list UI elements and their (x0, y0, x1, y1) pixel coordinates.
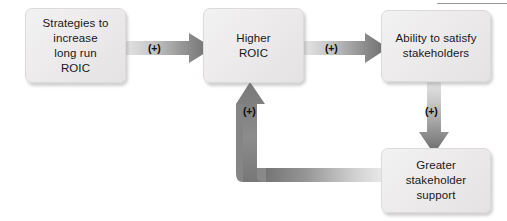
edge-label-support-to-higher-roic: (+) (243, 105, 256, 117)
arrow-support-to-higher-roic-feedback (236, 78, 388, 186)
edge-label-higher-roic-to-ability: (+) (325, 42, 338, 54)
node-higher-roic[interactable]: Higher ROIC (203, 8, 304, 83)
edge-label-strategies-to-higher-roic: (+) (148, 42, 161, 54)
node-greater-stakeholder-support[interactable]: Greater stakeholder support (381, 148, 491, 213)
node-ability-to-satisfy-stakeholders[interactable]: Ability to satisfy stakeholders (381, 10, 491, 82)
arrow-higher-roic-to-ability (296, 33, 388, 63)
page-edge-artifact-fill (437, 4, 507, 6)
edge-label-ability-to-support: (+) (425, 105, 438, 117)
diagram-canvas: Strategies to increase long run ROIC Hig… (0, 0, 507, 221)
node-strategies-to-increase-long-run-roic[interactable]: Strategies to increase long run ROIC (25, 8, 126, 83)
arrow-strategies-to-higher-roic (117, 33, 213, 63)
